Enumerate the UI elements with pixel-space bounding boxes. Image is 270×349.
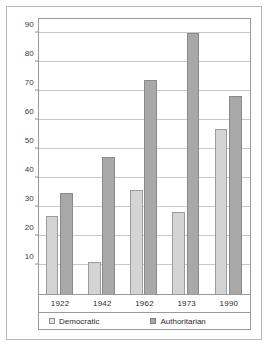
chart-panel: Number of nations 102030405060708090 192… bbox=[38, 18, 251, 330]
bars-layer bbox=[39, 19, 250, 294]
bar-democratic-1990 bbox=[215, 129, 228, 294]
bar-authoritarian-1942 bbox=[102, 157, 115, 295]
bar-democratic-1962 bbox=[130, 190, 143, 294]
bar-authoritarian-1990 bbox=[229, 96, 242, 294]
bar-democratic-1942 bbox=[88, 262, 101, 294]
y-tick-label: 90 bbox=[25, 20, 34, 29]
y-tick-label: 20 bbox=[25, 223, 34, 232]
plot-area: 102030405060708090 bbox=[38, 18, 251, 295]
bar-democratic-1922 bbox=[46, 216, 59, 294]
bar-authoritarian-1922 bbox=[60, 193, 73, 294]
y-tick-label: 10 bbox=[25, 252, 34, 261]
x-axis-label-1962: 1962 bbox=[123, 295, 165, 312]
bar-group bbox=[81, 19, 123, 294]
legend-label-democratic: Democratic bbox=[59, 317, 99, 326]
x-axis-label-1942: 1942 bbox=[81, 295, 123, 312]
bar-group bbox=[123, 19, 165, 294]
bar-authoritarian-1973 bbox=[187, 33, 200, 294]
bar-authoritarian-1962 bbox=[144, 80, 157, 294]
authoritarian-swatch-icon bbox=[150, 318, 156, 324]
plot-inner: 102030405060708090 bbox=[39, 19, 250, 294]
legend-label-authoritarian: Authoritarian bbox=[160, 317, 205, 326]
y-tick-label: 40 bbox=[25, 165, 34, 174]
figure-frame: Number of nations 102030405060708090 192… bbox=[6, 6, 262, 340]
bar-democratic-1973 bbox=[172, 212, 185, 295]
legend-item-democratic: Democratic bbox=[49, 317, 99, 326]
x-axis-label-1990: 1990 bbox=[208, 295, 250, 312]
democratic-swatch-icon bbox=[49, 318, 55, 324]
bar-group bbox=[166, 19, 208, 294]
y-tick-label: 50 bbox=[25, 136, 34, 145]
x-axis-label-1973: 1973 bbox=[166, 295, 208, 312]
chart-legend: Democratic Authoritarian bbox=[38, 313, 251, 330]
bar-group bbox=[208, 19, 250, 294]
y-tick-label: 70 bbox=[25, 78, 34, 87]
legend-item-authoritarian: Authoritarian bbox=[150, 317, 205, 326]
y-tick-label: 80 bbox=[25, 49, 34, 58]
y-tick-label: 60 bbox=[25, 107, 34, 116]
x-axis-categories: 19221942196219731990 bbox=[38, 295, 251, 313]
x-axis-label-1922: 1922 bbox=[39, 295, 81, 312]
y-tick-label: 30 bbox=[25, 194, 34, 203]
bar-group bbox=[39, 19, 81, 294]
